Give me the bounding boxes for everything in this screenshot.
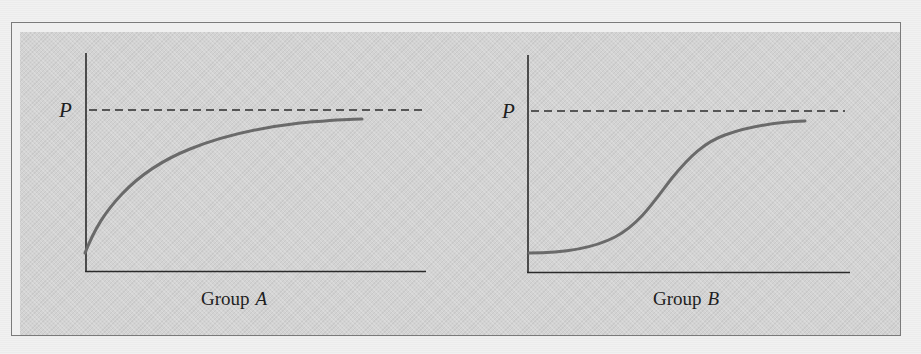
xlabel-var-b: B [708,288,720,309]
asymptote-label-b: P [502,101,515,122]
xlabel-group-b: GroupB [653,289,719,308]
xlabel-group-a: GroupA [201,289,267,308]
figure-canvas: P GroupA P GroupB [0,0,921,354]
panel-group-a [85,53,426,272]
xlabel-prefix-a: Group [201,288,250,309]
asymptote-label-a: P [59,100,72,121]
curve-group-b [529,121,805,253]
curve-group-a [85,119,362,253]
xlabel-prefix-b: Group [653,288,702,309]
xlabel-var-a: A [256,288,268,309]
panel-group-b [527,55,850,273]
diagram-svg [0,0,921,354]
